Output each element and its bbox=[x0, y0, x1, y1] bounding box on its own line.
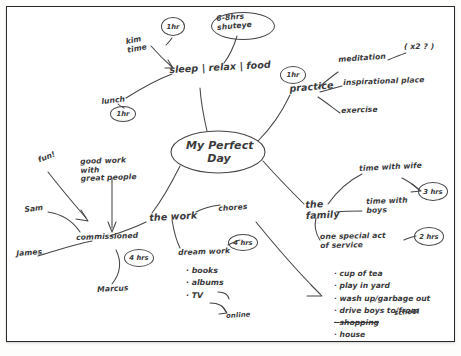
practice-child-exercise: exercise bbox=[341, 106, 378, 116]
dream-work-item: albums bbox=[186, 277, 224, 289]
james-label: James bbox=[16, 248, 43, 259]
the-family-label: the family bbox=[305, 198, 340, 222]
act-of-service-hours-badge: 2 hrs bbox=[414, 227, 444, 246]
practice-hours-badge: 1hr bbox=[280, 66, 306, 84]
time-with-boys-label: time with boys bbox=[366, 197, 408, 216]
central-node-label: My Perfect Day bbox=[186, 140, 252, 165]
dream-work-item: books bbox=[186, 265, 224, 277]
service-item: play in yard bbox=[334, 280, 430, 292]
dream-work-hours-badge: 4 hrs bbox=[228, 234, 258, 251]
dream-work-item: TV bbox=[186, 290, 224, 302]
school-label: school bbox=[394, 309, 420, 318]
good-people-label: good work with great people bbox=[80, 156, 137, 184]
service-item-struck: shopping bbox=[334, 317, 430, 329]
act-of-service-items: cup of tea play in yard wash up/garbage … bbox=[334, 268, 430, 342]
meditation-annotation: ( x2 ? ) bbox=[404, 43, 434, 52]
commissioned-hours-badge: 4 hrs bbox=[124, 249, 154, 267]
shuteye-ring bbox=[211, 12, 275, 40]
online-label: online bbox=[226, 311, 251, 320]
lunch-hours-badge: 1hr bbox=[110, 106, 136, 122]
kim-time-label: kim time bbox=[125, 34, 148, 55]
service-item: cup of tea bbox=[334, 268, 430, 280]
act-of-service-label: one special act of service bbox=[320, 232, 386, 251]
service-item: wash up/garbage out bbox=[334, 293, 430, 305]
dream-work-items: books albums TV bbox=[186, 265, 224, 302]
dream-work-label: dream work bbox=[178, 247, 230, 258]
marcus-label: Marcus bbox=[97, 284, 129, 294]
kim-time-hours-badge: 1hr bbox=[161, 17, 185, 36]
service-item: house bbox=[334, 329, 430, 341]
mindmap-page: My Perfect Day sleep | relax | food kim … bbox=[0, 0, 461, 356]
time-with-wife-hours-badge: 3 hrs bbox=[418, 182, 448, 201]
